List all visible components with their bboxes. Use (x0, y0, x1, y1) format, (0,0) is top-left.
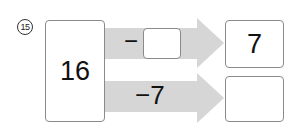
top-result-box: 7 (225, 20, 284, 68)
start-value-box: 16 (45, 20, 105, 122)
top-result-value: 7 (247, 29, 262, 60)
bottom-result-answer-box[interactable] (225, 76, 284, 122)
top-operator: − (124, 27, 138, 55)
bottom-operation: −7 (135, 80, 165, 111)
problem-number: 15 (17, 19, 33, 35)
start-value: 16 (60, 56, 90, 87)
upper-arrow-head-icon (197, 18, 225, 68)
top-operand-answer-box[interactable] (143, 28, 181, 59)
lower-arrow-head-icon (197, 73, 225, 123)
